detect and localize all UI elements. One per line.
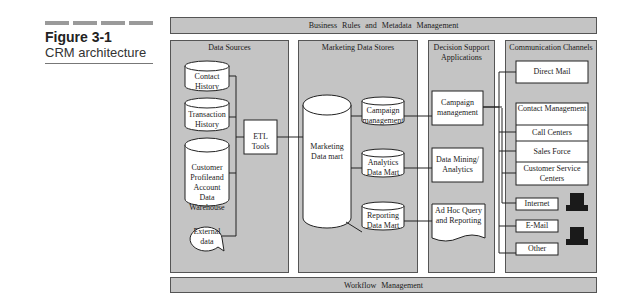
email-label: E-Mail	[516, 221, 558, 231]
marketing-data-stores-title: Marketing Data Stores	[299, 43, 417, 53]
etl-tools-label: ETL Tools	[244, 132, 277, 152]
business-rules-bar: Business Rules and Metadata Management	[170, 17, 597, 34]
figure-rule	[45, 63, 153, 64]
contact-management-label: Contact Management	[516, 104, 588, 114]
figure-decor-bars	[45, 21, 153, 25]
figure-number: Figure 3-1	[45, 29, 112, 45]
reporting-data-mart-label: Reporting Data Mart	[362, 211, 404, 231]
ad-hoc-query-label: Ad Hoc Query and Reporting	[432, 206, 485, 226]
call-centers-label: Call Centers	[516, 128, 588, 138]
internet-label: Internet	[516, 199, 558, 209]
sales-force-label: Sales Force	[516, 147, 588, 157]
analytics-data-mart-label: Analytics Data Mart	[362, 158, 404, 178]
decision-support-title: Decision Support Applications	[429, 43, 494, 63]
customer-warehouse-label: Customer Profileand Account Data Warehou…	[185, 163, 229, 213]
data-sources-title: Data Sources	[171, 43, 288, 53]
transaction-history-label: Transaction History	[185, 110, 229, 130]
communication-channels-title: Communication Channels	[506, 43, 596, 53]
contact-history-label: Contact History	[185, 72, 229, 92]
campaign-management-store-label: Campaign management	[362, 106, 404, 126]
marketing-data-mart-label: Marketing Data mart	[303, 142, 351, 162]
other-label: Other	[516, 244, 558, 254]
figure-caption: CRM architecture	[45, 45, 146, 60]
data-mining-label: Data Mining/ Analytics	[432, 155, 483, 175]
customer-service-label: Customer Service Centers	[516, 164, 588, 184]
external-data-label: External data	[190, 227, 224, 247]
direct-mail-label: Direct Mail	[516, 67, 588, 77]
workflow-management-bar: Workflow Management	[170, 277, 597, 293]
campaign-management-app-label: Campaign management	[432, 98, 483, 118]
